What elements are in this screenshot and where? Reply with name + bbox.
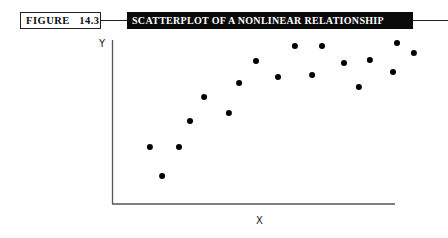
data-points bbox=[147, 40, 417, 179]
data-point bbox=[159, 173, 165, 179]
data-point bbox=[394, 40, 400, 46]
data-point bbox=[187, 118, 193, 124]
data-point bbox=[253, 58, 259, 64]
data-point bbox=[176, 144, 182, 150]
y-axis-label: Y bbox=[99, 38, 105, 49]
x-axis-label: X bbox=[256, 215, 263, 226]
data-point bbox=[201, 94, 207, 100]
data-point bbox=[390, 69, 396, 75]
scatter-plot bbox=[0, 0, 448, 238]
figure: FIGURE 14.3 SCATTERPLOT OF A NONLINEAR R… bbox=[0, 0, 448, 238]
data-point bbox=[309, 72, 315, 78]
data-point bbox=[226, 110, 232, 116]
data-point bbox=[319, 43, 325, 49]
data-point bbox=[367, 57, 373, 63]
data-point bbox=[341, 60, 347, 66]
data-point bbox=[356, 84, 362, 90]
data-point bbox=[275, 74, 281, 80]
data-point bbox=[147, 144, 153, 150]
data-point bbox=[236, 80, 242, 86]
data-point bbox=[292, 43, 298, 49]
data-point bbox=[411, 50, 417, 56]
